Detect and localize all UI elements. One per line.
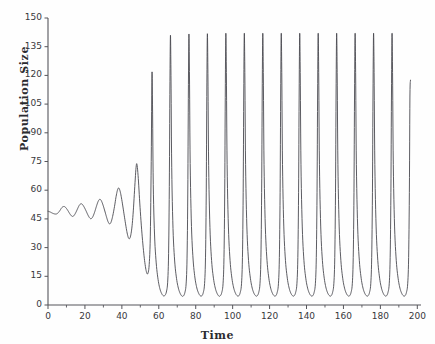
axes-group	[48, 18, 421, 305]
x-tick-label: 80	[176, 311, 216, 321]
x-tick-label: 160	[323, 311, 363, 321]
y-tick-label: 150	[25, 12, 42, 22]
y-axis-title: Population Size	[18, 29, 31, 169]
y-tick-label: 30	[31, 242, 42, 252]
y-tick-label: 15	[31, 270, 42, 280]
y-tick-label: 60	[31, 184, 42, 194]
population-series-line	[48, 33, 410, 296]
x-tick-label: 120	[250, 311, 290, 321]
x-tick-label: 40	[102, 311, 142, 321]
x-tick-label: 20	[65, 311, 105, 321]
chart-figure: 0153045607590105120135150 02040608010012…	[0, 0, 435, 344]
x-tick-label: 60	[139, 311, 179, 321]
y-tick-label: 75	[31, 156, 42, 166]
y-tick-label: 0	[36, 299, 42, 309]
x-tick-label: 140	[287, 311, 327, 321]
plot-canvas	[0, 0, 435, 344]
y-tick-label: 90	[31, 127, 42, 137]
x-tick-label: 200	[397, 311, 435, 321]
x-axis-title: Time	[0, 329, 435, 342]
y-tick-label: 45	[31, 213, 42, 223]
x-tick-label: 100	[213, 311, 253, 321]
x-tick-label: 180	[360, 311, 400, 321]
x-tick-label: 0	[28, 311, 68, 321]
